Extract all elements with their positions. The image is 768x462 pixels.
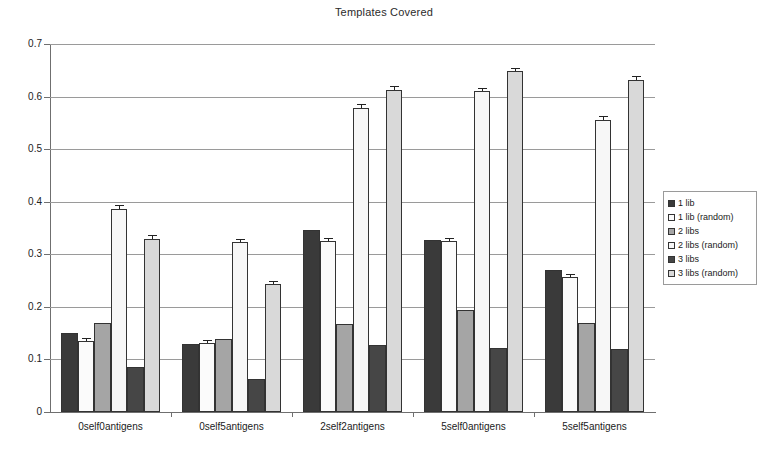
bar[interactable]: [578, 323, 595, 412]
bar[interactable]: [111, 209, 128, 412]
bar-group: [61, 44, 160, 412]
y-tick-label: 0.1: [12, 353, 42, 364]
error-bar: [119, 206, 120, 209]
legend-item[interactable]: 2 libs (random): [668, 238, 753, 252]
chart-legend: 1 lib1 lib (random)2 libs2 libs (random)…: [663, 191, 757, 285]
bar[interactable]: [61, 333, 78, 412]
error-bar: [361, 105, 362, 108]
plot-area: [50, 44, 655, 412]
legend-label: 3 libs (random): [678, 268, 738, 278]
legend-swatch-icon: [668, 256, 675, 263]
bar-group: [545, 44, 644, 412]
error-bar: [207, 341, 208, 343]
error-bar: [515, 69, 516, 71]
bar[interactable]: [336, 324, 353, 412]
legend-swatch-icon: [668, 214, 675, 221]
x-tick-mark: [413, 412, 414, 417]
y-tick-label: 0.5: [12, 143, 42, 154]
y-tick-label: 0.4: [12, 196, 42, 207]
error-bar-cap: [269, 281, 278, 282]
error-bar: [570, 275, 571, 277]
legend-label: 3 libs: [678, 254, 699, 264]
error-bar-cap: [357, 104, 366, 105]
error-bar-cap: [324, 238, 333, 239]
bar[interactable]: [199, 343, 216, 412]
error-bar-cap: [236, 239, 245, 240]
x-category-label: 0self0antigens: [50, 421, 171, 432]
y-tick-label: 0.2: [12, 301, 42, 312]
bar[interactable]: [611, 349, 628, 412]
legend-label: 1 lib: [678, 198, 695, 208]
error-bar-cap: [203, 340, 212, 341]
error-bar: [394, 87, 395, 90]
legend-item[interactable]: 1 lib: [668, 196, 753, 210]
error-bar: [86, 339, 87, 341]
bar[interactable]: [94, 323, 111, 412]
bar[interactable]: [474, 91, 491, 412]
bar[interactable]: [265, 284, 282, 412]
error-bar: [240, 240, 241, 242]
legend-swatch-icon: [668, 228, 675, 235]
y-axis-tick-labels: 00.10.20.30.40.50.60.7: [8, 44, 42, 412]
y-tick-label: 0.6: [12, 91, 42, 102]
bar[interactable]: [595, 120, 612, 412]
bar[interactable]: [320, 241, 337, 412]
legend-item[interactable]: 2 libs: [668, 224, 753, 238]
legend-swatch-icon: [668, 200, 675, 207]
error-bar-cap: [511, 68, 520, 69]
x-category-label: 0self5antigens: [171, 421, 292, 432]
legend-item[interactable]: 1 lib (random): [668, 210, 753, 224]
bar[interactable]: [303, 230, 320, 412]
chart-title: Templates Covered: [0, 6, 768, 18]
error-bar-cap: [82, 338, 91, 339]
error-bar: [603, 117, 604, 120]
x-category-label: 5self5antigens: [534, 421, 655, 432]
error-bar: [152, 236, 153, 239]
bar[interactable]: [490, 348, 507, 412]
bar[interactable]: [144, 239, 161, 412]
bar[interactable]: [369, 345, 386, 412]
y-tick-label: 0.3: [12, 248, 42, 259]
bar[interactable]: [232, 242, 249, 412]
bar[interactable]: [127, 367, 144, 412]
bar[interactable]: [545, 270, 562, 412]
error-bar-cap: [115, 205, 124, 206]
y-tick-label: 0.7: [12, 38, 42, 49]
bar[interactable]: [386, 90, 403, 412]
legend-swatch-icon: [668, 270, 675, 277]
error-bar: [328, 239, 329, 241]
bar[interactable]: [182, 344, 199, 412]
error-bar: [449, 239, 450, 241]
error-bar-cap: [566, 274, 575, 275]
legend-item[interactable]: 3 libs (random): [668, 266, 753, 280]
bar[interactable]: [457, 310, 474, 413]
bar[interactable]: [628, 80, 645, 412]
error-bar: [482, 89, 483, 92]
bar[interactable]: [78, 341, 95, 412]
bar[interactable]: [215, 339, 232, 412]
bar-group: [424, 44, 523, 412]
y-tick-label: 0: [12, 406, 42, 417]
legend-label: 1 lib (random): [678, 212, 734, 222]
x-tick-mark: [292, 412, 293, 417]
bar[interactable]: [424, 240, 441, 412]
legend-swatch-icon: [668, 242, 675, 249]
bar[interactable]: [507, 71, 524, 412]
bar-group: [303, 44, 402, 412]
x-category-label: 2self2antigens: [292, 421, 413, 432]
error-bar-cap: [478, 88, 487, 89]
bar[interactable]: [248, 379, 265, 412]
bar[interactable]: [353, 108, 370, 412]
error-bar-cap: [445, 238, 454, 239]
x-tick-mark: [534, 412, 535, 417]
bar[interactable]: [441, 241, 458, 412]
legend-item[interactable]: 3 libs: [668, 252, 753, 266]
legend-label: 2 libs: [678, 226, 699, 236]
error-bar: [273, 282, 274, 284]
x-axis-line: [50, 412, 656, 413]
error-bar: [636, 77, 637, 80]
bar[interactable]: [562, 277, 579, 412]
x-category-label: 5self0antigens: [413, 421, 534, 432]
error-bar-cap: [632, 76, 641, 77]
legend-label: 2 libs (random): [678, 240, 738, 250]
